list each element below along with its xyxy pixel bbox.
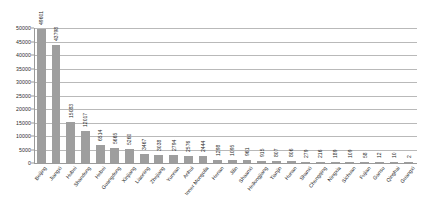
y-tick-label: 20000 xyxy=(16,106,31,112)
bar[interactable] xyxy=(331,162,340,163)
bar[interactable] xyxy=(213,160,222,164)
bar-value-label: 10 xyxy=(391,153,397,159)
bar-value-label: 2794 xyxy=(170,140,176,151)
bar-value-label: 189 xyxy=(332,150,338,159)
bar-slot[interactable]: 58 xyxy=(360,28,369,163)
y-tick-label: 40000 xyxy=(16,52,31,58)
bar-value-label: 216 xyxy=(317,150,323,159)
bar-value-label: 109 xyxy=(346,150,352,159)
bar-value-label: 807 xyxy=(273,148,279,157)
bar-value-label: 961 xyxy=(244,148,250,157)
bar-slot[interactable]: 5260 xyxy=(125,28,134,163)
bar-value-label: 2444 xyxy=(200,141,206,152)
bar-chart: 0500010000150002000025000300003500040000… xyxy=(0,0,427,208)
bar[interactable] xyxy=(125,149,134,163)
bar[interactable] xyxy=(257,161,266,163)
bar-value-label: 12 xyxy=(376,153,382,159)
bar-value-label: 806 xyxy=(288,148,294,157)
bars-layer: 4960143798150831201765145665526034673038… xyxy=(34,28,416,163)
bar[interactable] xyxy=(110,148,119,163)
x-axis: BeijingJiangxiHubeiShandongHebeiGuangdon… xyxy=(34,165,416,208)
bar-slot[interactable]: 961 xyxy=(243,28,252,163)
bar[interactable] xyxy=(96,145,105,163)
bar-slot[interactable]: 2576 xyxy=(184,28,193,163)
bar[interactable] xyxy=(81,131,90,163)
bar-slot[interactable]: 49601 xyxy=(37,28,46,163)
bar[interactable] xyxy=(199,156,208,163)
bar-value-label: 3038 xyxy=(155,139,161,150)
y-tick-label: 35000 xyxy=(16,66,31,72)
y-tick-label: 45000 xyxy=(16,39,31,45)
bar-value-label: 3467 xyxy=(141,138,147,149)
bar-slot[interactable]: 1095 xyxy=(228,28,237,163)
bar-value-label: 6514 xyxy=(97,130,103,141)
bar[interactable] xyxy=(66,122,75,163)
bar-value-label: 1095 xyxy=(229,145,235,156)
bar-value-label: 2576 xyxy=(185,141,191,152)
y-tick-label: 10000 xyxy=(16,133,31,139)
bar-slot[interactable]: 12017 xyxy=(81,28,90,163)
bar-value-label: 915 xyxy=(258,148,264,157)
bar-slot[interactable]: 10 xyxy=(390,28,399,163)
bar[interactable] xyxy=(154,155,163,163)
bar-slot[interactable]: 43798 xyxy=(52,28,61,163)
bar-slot[interactable]: 806 xyxy=(287,28,296,163)
bar[interactable] xyxy=(228,160,237,163)
bar-slot[interactable]: 3038 xyxy=(154,28,163,163)
bar-value-label: 279 xyxy=(302,150,308,159)
bar-slot[interactable]: 2 xyxy=(404,28,413,163)
y-tick-label: 25000 xyxy=(16,93,31,99)
bar[interactable] xyxy=(184,156,193,163)
bar-value-label: 1298 xyxy=(214,144,220,155)
bar[interactable] xyxy=(404,162,413,163)
bar-value-label: 43798 xyxy=(53,27,59,41)
bar[interactable] xyxy=(375,162,384,163)
y-tick-label: 30000 xyxy=(16,79,31,85)
bar-value-label: 5260 xyxy=(126,133,132,144)
bar-value-label: 15083 xyxy=(67,104,73,118)
bar-slot[interactable]: 279 xyxy=(301,28,310,163)
y-tick-label: 15000 xyxy=(16,120,31,126)
bar-slot[interactable]: 2794 xyxy=(169,28,178,163)
bar[interactable] xyxy=(360,162,369,163)
bar[interactable] xyxy=(140,154,149,163)
bar-slot[interactable]: 6514 xyxy=(96,28,105,163)
bar-slot[interactable]: 807 xyxy=(272,28,281,163)
bar-value-label: 58 xyxy=(361,153,367,159)
bar[interactable] xyxy=(390,162,399,163)
y-tick-label: 50000 xyxy=(16,25,31,31)
bar-slot[interactable]: 1298 xyxy=(213,28,222,163)
bar-slot[interactable]: 2444 xyxy=(199,28,208,163)
bar-slot[interactable]: 216 xyxy=(316,28,325,163)
bar[interactable] xyxy=(52,45,61,163)
y-axis: 0500010000150002000025000300003500040000… xyxy=(0,28,31,163)
bar-value-label: 12017 xyxy=(82,112,88,126)
bar-value-label: 49601 xyxy=(38,11,44,25)
bar-value-label: 5665 xyxy=(111,132,117,143)
bar[interactable] xyxy=(345,162,354,163)
bar-slot[interactable]: 109 xyxy=(345,28,354,163)
bar-slot[interactable]: 15083 xyxy=(66,28,75,163)
bar-slot[interactable]: 189 xyxy=(331,28,340,163)
y-tick-label: 5000 xyxy=(19,147,31,153)
bar-slot[interactable]: 915 xyxy=(257,28,266,163)
bar-slot[interactable]: 3467 xyxy=(140,28,149,163)
bar[interactable] xyxy=(169,155,178,163)
bar-slot[interactable]: 12 xyxy=(375,28,384,163)
bar[interactable] xyxy=(316,162,325,163)
bar[interactable] xyxy=(301,162,310,163)
bar[interactable] xyxy=(37,29,46,163)
bar[interactable] xyxy=(243,160,252,163)
bar-value-label: 2 xyxy=(405,156,411,159)
bar[interactable] xyxy=(287,161,296,163)
bar[interactable] xyxy=(272,161,281,163)
bar-slot[interactable]: 5665 xyxy=(110,28,119,163)
